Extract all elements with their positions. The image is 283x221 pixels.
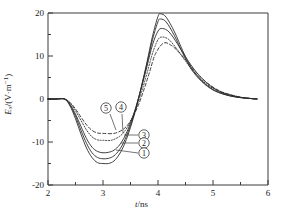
y-axis-label: Ex/(V·m−1) (2, 59, 14, 129)
x-axis-major-ticks (48, 180, 268, 185)
curve-1 (48, 14, 257, 164)
y-tick-labels: 20 10 0 -10 -20 (32, 8, 45, 190)
callout-text-5: 5 (104, 104, 108, 113)
x-tick-label: 3 (101, 188, 106, 198)
y-tick-label: 0 (40, 94, 45, 104)
y-tick-label: 20 (35, 8, 45, 18)
x-tick-labels: 2 3 4 5 6 (46, 188, 271, 198)
callout-labels: 5 4 3 2 1 (101, 102, 149, 158)
y-axis-paren: ) (3, 74, 13, 77)
x-tick-label: 6 (266, 188, 271, 198)
curve-2 (48, 19, 257, 159)
x-tick-label: 4 (156, 188, 161, 198)
y-tick-label: 10 (35, 51, 45, 61)
curve-3 (48, 28, 257, 152)
curve-5 (48, 43, 257, 134)
callout-text-1: 1 (142, 149, 146, 158)
y-axis-symbol: E (3, 109, 13, 115)
data-curves (48, 14, 257, 164)
x-tick-label: 2 (46, 188, 51, 198)
x-axis-label: t/ns (0, 199, 283, 209)
x-axis-unit: /ns (138, 199, 149, 209)
callout-text-2: 2 (142, 139, 146, 148)
axis-frame (48, 13, 268, 185)
y-axis-subscript: x (6, 106, 14, 109)
y-axis-unit: /(V·m (3, 84, 13, 106)
x-tick-label: 5 (211, 188, 216, 198)
chart-figure: 20 10 0 -10 -20 2 3 4 5 6 5 (0, 0, 283, 221)
callout-text-4: 4 (119, 103, 123, 112)
y-tick-label: -20 (32, 180, 44, 190)
y-tick-label: -10 (32, 137, 44, 147)
chart-svg: 20 10 0 -10 -20 2 3 4 5 6 5 (0, 0, 283, 221)
y-axis-superscript: −1 (2, 77, 10, 84)
